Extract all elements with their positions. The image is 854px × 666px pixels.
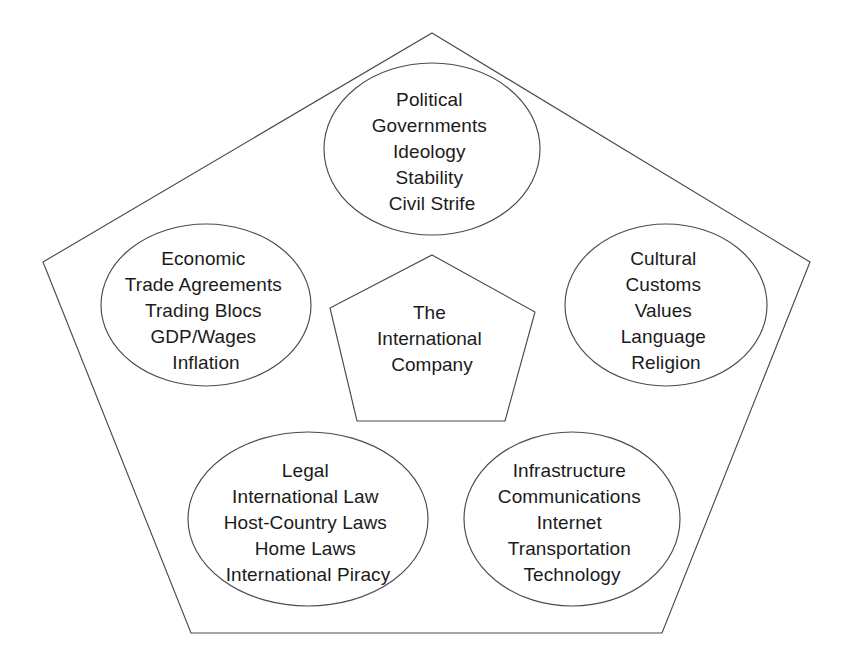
economic-line-2: Trade Agreements (125, 274, 282, 295)
cultural-line-4: Language (621, 326, 706, 347)
center-line-3: Company (391, 354, 473, 375)
infrastructure-line-3: Internet (537, 512, 603, 533)
center-line-2: International (377, 328, 482, 349)
legal-line-4: Home Laws (255, 538, 356, 559)
cultural-line-1: Cultural (630, 248, 696, 269)
legal-line-1: Legal (282, 460, 329, 481)
infrastructure-line-4: Transportation (508, 538, 631, 559)
international-company-environment-diagram: The International Company Political Gove… (0, 0, 854, 666)
cultural-line-2: Customs (625, 274, 701, 295)
economic-line-3: Trading Blocs (145, 300, 262, 321)
infrastructure-line-1: Infrastructure (513, 460, 626, 481)
economic-line-5: Inflation (172, 352, 239, 373)
legal-line-2: International Law (232, 486, 379, 507)
infrastructure-line-5: Technology (523, 564, 621, 585)
cultural-line-3: Values (635, 300, 692, 321)
political-line-5: Civil Strife (389, 193, 476, 214)
political-line-1: Political (396, 89, 462, 110)
political-line-4: Stability (396, 167, 464, 188)
diagram-canvas: The International Company Political Gove… (0, 0, 854, 666)
political-line-3: Ideology (393, 141, 466, 162)
economic-line-1: Economic (161, 248, 245, 269)
cultural-line-5: Religion (631, 352, 700, 373)
legal-line-5: International Piracy (226, 564, 391, 585)
center-line-1: The (413, 302, 446, 323)
political-line-2: Governments (372, 115, 487, 136)
legal-line-3: Host-Country Laws (224, 512, 387, 533)
infrastructure-line-2: Communications (498, 486, 641, 507)
economic-line-4: GDP/Wages (150, 326, 256, 347)
